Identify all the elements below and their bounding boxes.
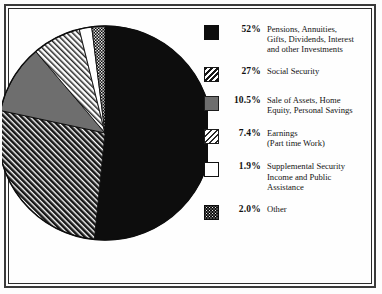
legend-label: Pensions, Annuities, Gifts, Dividends, I… [267, 24, 370, 55]
legend-item-sale-of-assets: 10.5% Sale of Assets, Home Equity, Perso… [204, 95, 370, 115]
chart-page: 52% Pensions, Annuities, Gifts, Dividend… [0, 0, 382, 294]
chart-legend: 52% Pensions, Annuities, Gifts, Dividend… [204, 24, 370, 229]
legend-item-social-security: 27% Social Security [204, 66, 370, 82]
legend-item-earnings: 7.4% Earnings (Part time Work) [204, 128, 370, 148]
pie-slice [94, 26, 208, 240]
checker-swatch [204, 205, 219, 220]
pie-chart [2, 20, 208, 246]
legend-label-line: Income and Public [267, 172, 370, 182]
legend-item-supplemental-security: 1.9% Supplemental Security Income and Pu… [204, 161, 370, 192]
gray-swatch [204, 96, 219, 111]
solid-black-swatch [204, 25, 219, 40]
legend-label-line: Pensions, Annuities, [267, 24, 370, 34]
pie-slice-group [2, 26, 208, 240]
legend-percent: 52% [219, 24, 267, 35]
pie-chart-svg [2, 20, 208, 246]
legend-percent: 27% [219, 66, 267, 77]
legend-label-line: Other [267, 204, 370, 214]
legend-label-line: and other Investments [267, 44, 370, 54]
legend-percent: 10.5% [219, 95, 267, 106]
legend-label: Earnings (Part time Work) [267, 128, 370, 148]
legend-label: Sale of Assets, Home Equity, Personal Sa… [267, 95, 370, 115]
legend-label-line: Equity, Personal Savings [267, 105, 370, 115]
legend-label-line: Social Security [267, 66, 370, 76]
legend-percent: 7.4% [219, 128, 267, 139]
dark-hatch-swatch [204, 67, 219, 82]
white-swatch [204, 162, 219, 177]
light-hatch-swatch [204, 129, 219, 144]
legend-label-line: Gifts, Dividends, Interest [267, 34, 370, 44]
legend-label-line: Supplemental Security [267, 161, 370, 171]
legend-label-line: Sale of Assets, Home [267, 95, 370, 105]
legend-label: Social Security [267, 66, 370, 76]
legend-label-line: Earnings [267, 128, 370, 138]
legend-percent: 1.9% [219, 161, 267, 172]
legend-item-pensions: 52% Pensions, Annuities, Gifts, Dividend… [204, 24, 370, 55]
legend-label: Supplemental Security Income and Public … [267, 161, 370, 192]
legend-item-other: 2.0% Other [204, 204, 370, 220]
legend-percent: 2.0% [219, 204, 267, 215]
legend-label-line: Assistance [267, 182, 370, 192]
legend-label: Other [267, 204, 370, 214]
legend-label-line: (Part time Work) [267, 138, 370, 148]
